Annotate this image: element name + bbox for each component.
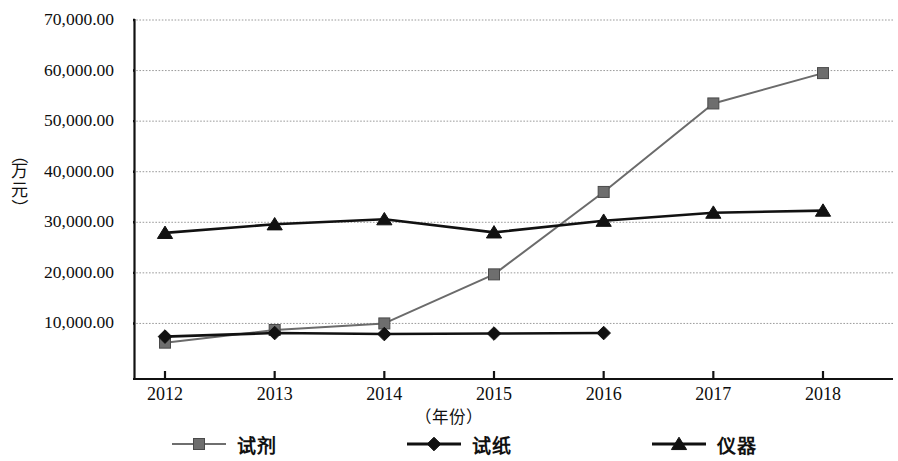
datapoint-试纸-2016	[597, 326, 611, 340]
series-试剂	[160, 68, 829, 349]
series-试纸	[158, 326, 610, 343]
series-仪器	[157, 204, 830, 239]
y-tick-label-10000: 10,000.00	[0, 312, 126, 333]
gridlines	[133, 20, 893, 323]
legend-label-试纸: 试纸	[472, 431, 512, 458]
x-tick-label-2013: 2013	[257, 384, 293, 405]
y-tick-label-20000: 20,000.00	[0, 262, 126, 283]
x-tick-label-2012: 2012	[147, 384, 183, 405]
x-tick-label-2018: 2018	[805, 384, 841, 405]
chart-legend: 试剂试纸仪器	[0, 430, 898, 460]
legend-item-试纸[interactable]: 试纸	[405, 430, 512, 458]
y-tick-label-70000: 70,000.00	[0, 9, 126, 30]
legend-item-仪器[interactable]: 仪器	[650, 430, 757, 458]
y-tick-label-50000: 50,000.00	[0, 110, 126, 131]
x-axis-title: （年份）	[0, 404, 898, 428]
legend-marker-square-icon	[170, 434, 228, 454]
series-line-试剂	[165, 73, 823, 343]
legend-symbol-试剂	[194, 439, 205, 450]
x-tick-label-2017: 2017	[695, 384, 731, 405]
datapoint-试剂-2018	[818, 68, 829, 79]
datapoint-试剂-2015	[489, 269, 500, 280]
plot-area	[133, 18, 893, 380]
datapoint-试纸-2015	[487, 327, 501, 341]
axes	[133, 19, 893, 380]
legend-marker-diamond-icon	[405, 434, 463, 454]
x-tick-label-2016: 2016	[586, 384, 622, 405]
x-tick-label-2014: 2014	[366, 384, 402, 405]
plot-svg	[133, 18, 893, 380]
datapoint-试剂-2017	[708, 98, 719, 109]
y-tick-label-40000: 40,000.00	[0, 161, 126, 182]
legend-label-仪器: 仪器	[717, 431, 757, 458]
y-tick-label-30000: 30,000.00	[0, 211, 126, 232]
legend-symbol-试纸	[427, 437, 441, 451]
legend-item-试剂[interactable]: 试剂	[170, 430, 277, 458]
datapoint-试剂-2016	[598, 186, 609, 197]
legend-marker-triangle-icon	[650, 434, 708, 454]
y-tick-label-60000: 60,000.00	[0, 60, 126, 81]
line-chart-figure: （ 万 元 ） 70,000.0060,000.0050,000.0040,00…	[0, 0, 898, 461]
legend-label-试剂: 试剂	[237, 431, 277, 458]
x-tick-label-2015: 2015	[476, 384, 512, 405]
